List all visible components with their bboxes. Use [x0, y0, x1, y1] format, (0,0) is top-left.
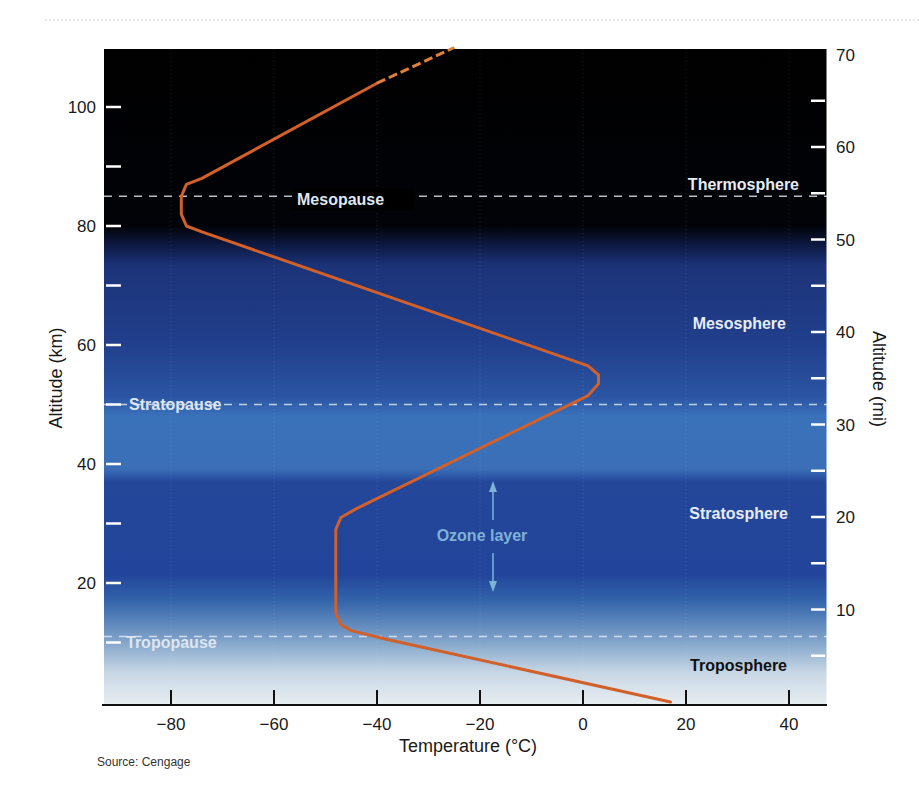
x-tick-labels: −80−60−40−2002040 [157, 715, 799, 734]
mesopause-label: Mesopause [297, 191, 384, 208]
y2-tick-label: 50 [836, 231, 855, 250]
y2-tick-label: 20 [836, 508, 855, 527]
y-tick-labels: 20406080100 [68, 98, 96, 593]
y2-tick-label: 30 [836, 416, 855, 435]
y-tick-label: 100 [68, 98, 96, 117]
x-tick-label: −40 [363, 715, 392, 734]
x-tick-label: 0 [578, 715, 587, 734]
ozone-label: Ozone layer [437, 527, 528, 544]
x-tick-label: 40 [780, 715, 799, 734]
y2-axis-title: Altitude (mi) [869, 331, 889, 427]
y2-tick-label: 60 [836, 138, 855, 157]
atmosphere-temperature-chart: Ozone layer Mesopause Stratopause Tropop… [0, 0, 919, 803]
y2-tick-label: 40 [836, 323, 855, 342]
stratosphere-label: Stratosphere [689, 505, 788, 522]
y-axis-title: Altitude (km) [46, 327, 66, 428]
y-tick-label: 40 [77, 455, 96, 474]
y-tick-label: 20 [77, 574, 96, 593]
plot-background [104, 49, 827, 705]
x-tick-label: −80 [157, 715, 186, 734]
x-axis-title: Temperature (°C) [399, 736, 537, 756]
troposphere-label: Troposphere [690, 657, 787, 674]
tropopause-label: Tropopause [126, 634, 217, 651]
x-tick-label: −60 [260, 715, 289, 734]
y2-tick-labels: 10203040506070 [836, 46, 855, 620]
y2-tick-label: 70 [836, 46, 855, 65]
y-tick-label: 80 [77, 217, 96, 236]
y-tick-label: 60 [77, 336, 96, 355]
stratopause-label: Stratopause [129, 396, 222, 413]
thermosphere-label: Thermosphere [688, 176, 799, 193]
mesosphere-label: Mesosphere [693, 315, 786, 332]
x-tick-label: −20 [466, 715, 495, 734]
x-tick-label: 20 [677, 715, 696, 734]
y2-tick-label: 10 [836, 601, 855, 620]
source-note: Source: Cengage [97, 755, 191, 769]
